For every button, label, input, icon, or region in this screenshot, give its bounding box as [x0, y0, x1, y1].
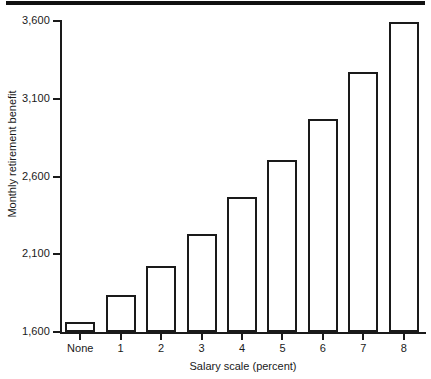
bar-7: [348, 72, 378, 332]
y-tick-label-text: 3,100: [4, 93, 50, 104]
x-tick-label: 8: [401, 342, 407, 354]
x-tick-mark: [362, 333, 364, 340]
x-tick-mark: [241, 333, 243, 340]
x-tick-label: 2: [158, 342, 164, 354]
y-tick-label: 1,600: [0, 326, 50, 337]
bar-8: [389, 22, 419, 332]
plot-area: [60, 21, 424, 332]
x-tick-mark: [120, 333, 122, 340]
bar-none: [65, 322, 95, 332]
y-tick-label-text: 2,100: [4, 248, 50, 259]
y-tick-label-text: 3,600: [4, 15, 50, 26]
y-tick-label: 3,100: [0, 93, 50, 104]
x-tick-label: 4: [239, 342, 245, 354]
bar-2: [146, 266, 176, 332]
bar-1: [106, 295, 136, 332]
retirement-benefit-bar-chart: Monthly retirement benefit Salary scale …: [0, 0, 431, 379]
x-tick-mark: [281, 333, 283, 340]
x-tick-label: 1: [118, 342, 124, 354]
x-tick-mark: [322, 333, 324, 340]
x-tick-mark: [403, 333, 405, 340]
bar-5: [267, 160, 297, 332]
x-tick-label: None: [67, 342, 93, 354]
x-axis-line: [60, 332, 426, 334]
x-tick-mark: [160, 333, 162, 340]
x-tick-mark: [79, 333, 81, 340]
x-axis-title: Salary scale (percent): [60, 360, 426, 372]
x-tick-label: 5: [279, 342, 285, 354]
x-tick-label: 7: [360, 342, 366, 354]
y-tick-label: 2,100: [0, 248, 50, 259]
x-tick-mark: [201, 333, 203, 340]
y-tick-label-text: 1,600: [4, 326, 50, 337]
y-tick-label: 2,600: [0, 171, 50, 182]
bar-4: [227, 197, 257, 332]
x-tick-label: 3: [198, 342, 204, 354]
y-tick-label: 3,600: [0, 15, 50, 26]
bar-3: [187, 234, 217, 332]
x-tick-label: 6: [320, 342, 326, 354]
bar-6: [308, 119, 338, 332]
y-tick-label-text: 2,600: [4, 171, 50, 182]
y-axis-title: Monthly retirement benefit: [6, 29, 18, 279]
top-rule-divider: [6, 1, 425, 5]
